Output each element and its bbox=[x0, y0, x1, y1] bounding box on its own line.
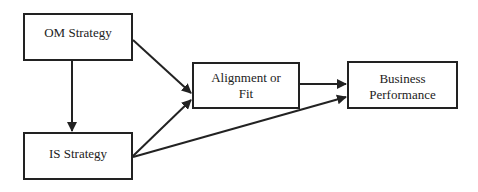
node-label-line1: Alignment or bbox=[211, 70, 281, 86]
node-label-line2: Fit bbox=[211, 86, 281, 102]
node-alignment-or-fit: Alignment or Fit bbox=[192, 62, 300, 109]
edge-om-to-fit bbox=[133, 40, 191, 93]
node-om-strategy: OM Strategy bbox=[23, 13, 133, 61]
node-label-line2: Performance bbox=[369, 87, 435, 103]
node-is-strategy: IS Strategy bbox=[23, 132, 133, 180]
node-label: IS Strategy bbox=[49, 146, 107, 162]
node-label-line1: Business bbox=[369, 71, 435, 87]
node-business-performance: Business Performance bbox=[347, 61, 458, 109]
edge-is-to-fit bbox=[133, 100, 191, 156]
node-label: OM Strategy bbox=[44, 25, 112, 41]
